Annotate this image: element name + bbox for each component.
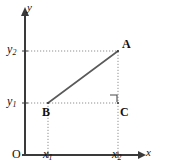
vertex-dot-c [117, 102, 119, 104]
point-label-a: A [122, 38, 131, 50]
x-tick-label-x1-sub: 1 [48, 153, 52, 162]
axes [22, 14, 138, 155]
x-axis-arrowhead [138, 151, 146, 159]
x-tick-label-x1: x1 [43, 148, 52, 160]
diagram-canvas [0, 0, 170, 168]
x-tick-label-x2: x2 [112, 148, 121, 160]
origin-label: O [12, 148, 21, 160]
x-axis-label: x [146, 147, 151, 158]
point-label-c: C [120, 106, 129, 118]
vertex-dot-b [47, 102, 49, 104]
y-tick-label-y1-sub: 1 [12, 100, 16, 109]
point-label-b: B [42, 106, 50, 118]
vertex-dot-a [117, 50, 119, 52]
x-tick-label-x2-sub: 2 [117, 153, 121, 162]
right-angle-marker-at-c [110, 95, 117, 102]
y-tick-label-y2-sub: 2 [12, 48, 16, 57]
y-tick-label-y2: y2 [7, 43, 16, 55]
y-tick-label-y1: y1 [7, 95, 16, 107]
tick-marks [22, 51, 118, 158]
coordinate-diagram: y x O y2 y1 x1 x2 A B C [0, 0, 170, 168]
y-axis-label: y [27, 2, 32, 13]
guide-lines [25, 51, 118, 155]
segment-ba-hypotenuse [48, 51, 118, 103]
